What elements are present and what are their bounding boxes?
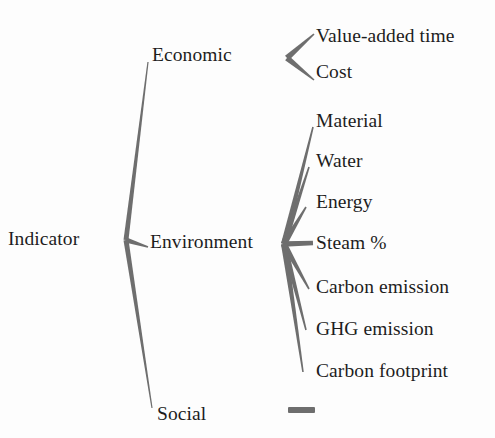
edge-environment-water	[281, 167, 310, 245]
node-energy[interactable]: Energy	[316, 192, 373, 212]
node-indicator[interactable]: Indicator	[8, 229, 79, 249]
node-steam-percent[interactable]: Steam %	[316, 233, 387, 253]
edge-environment-steam-percent	[284, 241, 313, 247]
edge-environment-carbon-footprint	[281, 244, 304, 373]
node-carbon-footprint[interactable]: Carbon footprint	[316, 361, 448, 381]
node-carbon-emission[interactable]: Carbon emission	[316, 277, 449, 297]
node-water[interactable]: Water	[316, 151, 363, 171]
edge-environment-material	[281, 127, 314, 245]
diagram-canvas: Indicator Economic Environment Social Va…	[0, 0, 495, 438]
node-economic[interactable]: Economic	[152, 45, 232, 65]
edge-economic-cost	[285, 56, 314, 81]
edge-environment-energy	[281, 207, 306, 246]
node-cost[interactable]: Cost	[316, 62, 352, 82]
node-social[interactable]: Social	[157, 404, 206, 424]
edge-indicator-social	[124, 240, 153, 408]
node-material[interactable]: Material	[316, 111, 383, 131]
edge-economic-value-added-time	[285, 33, 315, 60]
social-leaf-stub-dash	[288, 407, 315, 413]
edge-environment-ghg-emission	[281, 243, 307, 330]
node-ghg-emission[interactable]: GHG emission	[316, 319, 434, 339]
edge-indicator-environment	[125, 238, 148, 248]
edge-indicator-economic	[124, 62, 149, 240]
node-value-added-time[interactable]: Value-added time	[316, 26, 455, 46]
edge-environment-carbon-emission	[281, 243, 309, 290]
node-environment[interactable]: Environment	[150, 232, 253, 252]
